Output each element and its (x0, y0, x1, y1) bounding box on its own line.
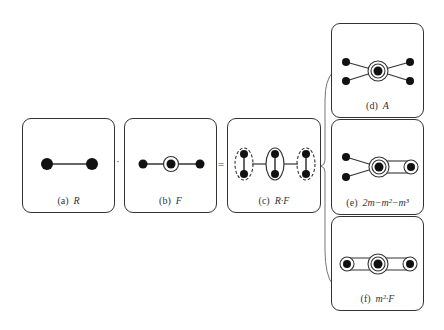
node-icon (86, 158, 98, 170)
node-icon (41, 158, 53, 170)
panel-c-RF: (c) R·F (227, 118, 321, 213)
panel-b-F: (b) F (124, 118, 217, 213)
caption-label: m²·F (376, 293, 395, 304)
caption-label: A (383, 100, 389, 111)
caption-a: (a) R (23, 195, 114, 206)
caption-c: (c) R·F (228, 195, 320, 206)
caption-tag: (d) (366, 100, 378, 111)
caption-tag: (f) (361, 293, 371, 304)
caption-label: R·F (275, 195, 290, 206)
node-icon (139, 160, 148, 169)
caption-b: (b) F (125, 195, 216, 206)
caption-tag: (a) (57, 195, 68, 206)
caption-label: F (176, 195, 182, 206)
panel-d-A: (d) A (331, 23, 424, 118)
caption-f: (f) m²·F (332, 293, 423, 304)
caption-tag: (b) (159, 195, 171, 206)
caption-e: (e) 2m−m²−m³ (332, 197, 423, 208)
caption-label: 2m−m²−m³ (362, 197, 408, 208)
panel-e: (e) 2m−m²−m³ (331, 119, 424, 215)
operator-times: · (116, 155, 120, 167)
panel-f: (f) m²·F (331, 216, 424, 311)
caption-label: R (74, 195, 80, 206)
operator-equals: = (218, 158, 224, 170)
caption-tag: (c) (259, 195, 270, 206)
panel-a-R: (a) R (22, 118, 115, 213)
node-icon (196, 160, 205, 169)
caption-tag: (e) (346, 197, 357, 208)
caption-d: (d) A (332, 100, 423, 111)
